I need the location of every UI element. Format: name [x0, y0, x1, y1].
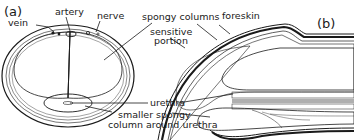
label-vein: vein: [8, 17, 28, 28]
label-artery: artery: [55, 6, 84, 17]
label-sensitive-2: portion: [154, 35, 188, 46]
panel-label-b: (b): [317, 16, 335, 31]
label-urethra: urethra: [150, 97, 185, 108]
anatomy-diagram: (a) (b) vein artery nerve spongy columns…: [0, 0, 354, 140]
panel-a-cross-section: [2, 25, 134, 127]
label-foreskin: foreskin: [222, 10, 260, 21]
label-nerve: nerve: [97, 10, 124, 21]
label-spongy-columns: spongy columns: [142, 11, 219, 22]
label-smaller-spongy-2: column around urethra: [108, 119, 217, 130]
